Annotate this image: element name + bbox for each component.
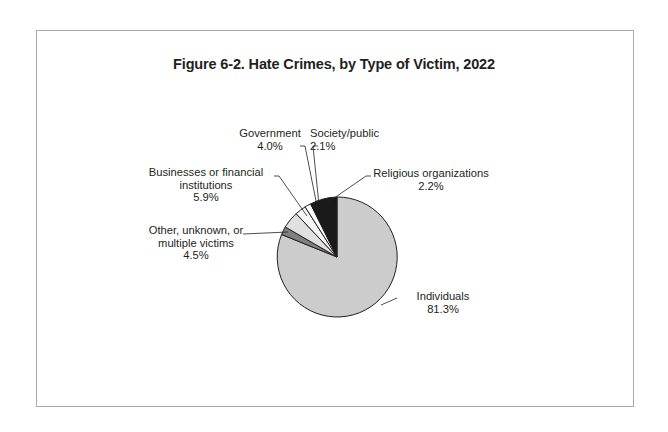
leader-line-society bbox=[313, 146, 319, 205]
figure-container: Figure 6-2. Hate Crimes, by Type of Vict… bbox=[0, 0, 668, 432]
pie-label-businesses: Businesses or financial institutions 5.9… bbox=[140, 166, 272, 204]
pie-label-society-public: Society/public 2.1% bbox=[310, 127, 402, 152]
pie-slices bbox=[277, 197, 397, 317]
leader-line-individuals bbox=[381, 298, 397, 305]
pie-label-government: Government 4.0% bbox=[224, 127, 316, 152]
pie-label-other-unknown-multiple: Other, unknown, or multiple victims 4.5% bbox=[128, 224, 264, 262]
pie-chart bbox=[0, 0, 668, 432]
pie-label-religious-organizations: Religious organizations 2.2% bbox=[366, 167, 496, 192]
pie-label-individuals: Individuals 81.3% bbox=[400, 290, 486, 315]
